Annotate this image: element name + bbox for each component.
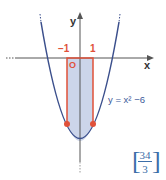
point-left xyxy=(64,121,70,127)
origin-label: O xyxy=(69,60,76,70)
x-axis-label: x xyxy=(144,60,150,70)
equation-label: y = x² −6 xyxy=(108,95,145,105)
fraction-bar xyxy=(138,161,152,162)
right-bracket: ] xyxy=(152,148,161,174)
point-right xyxy=(90,121,96,127)
tick-label-1: 1 xyxy=(90,44,96,54)
y-axis-arrow xyxy=(77,12,83,19)
answer-numerator: 34 xyxy=(138,149,152,161)
y-axis-label: y xyxy=(70,16,76,26)
tick-label-neg1: −1 xyxy=(58,44,69,54)
answer-box: [ 34 3 ] xyxy=(132,148,158,176)
answer-denominator: 3 xyxy=(138,163,152,175)
